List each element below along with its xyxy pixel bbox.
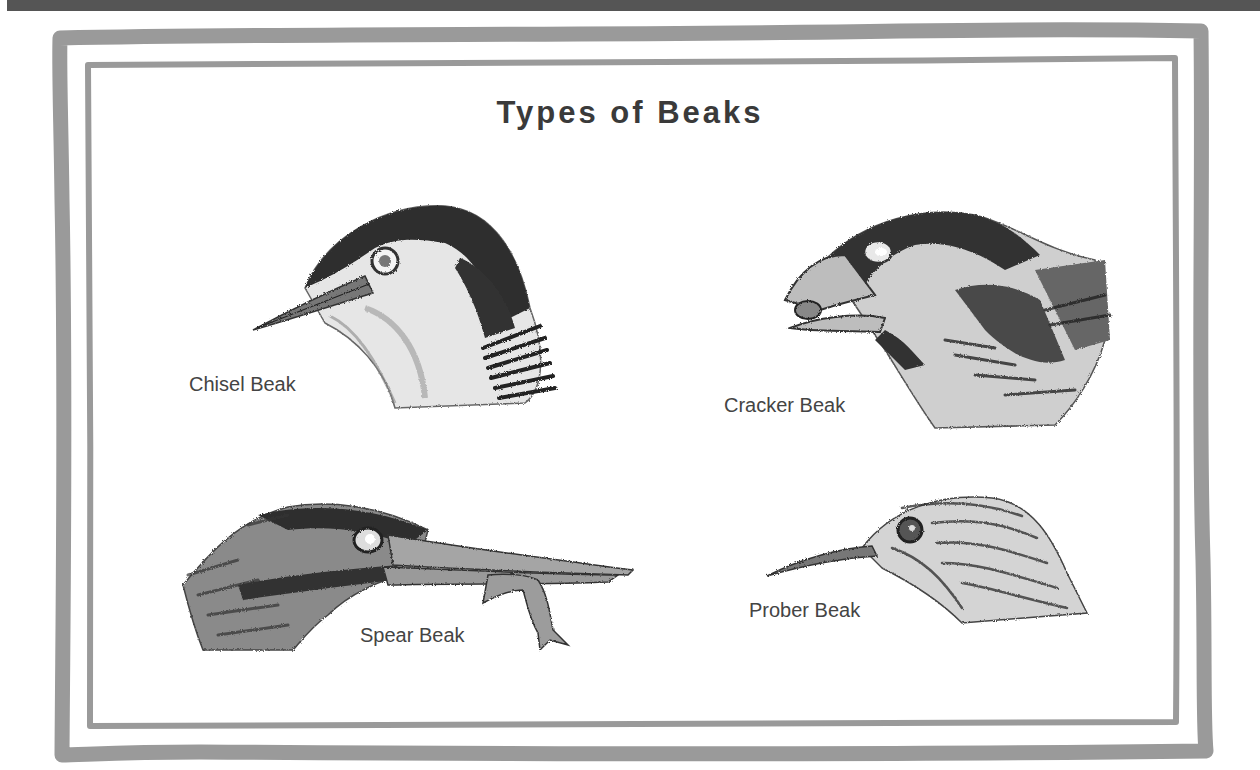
spear-beak-label: Spear Beak [360,624,465,647]
chisel-beak-label: Chisel Beak [189,373,296,396]
page-title: Types of Beaks [0,95,1260,131]
prober-beak-label: Prober Beak [749,599,860,622]
cracker-beak-label: Cracker Beak [724,394,845,417]
